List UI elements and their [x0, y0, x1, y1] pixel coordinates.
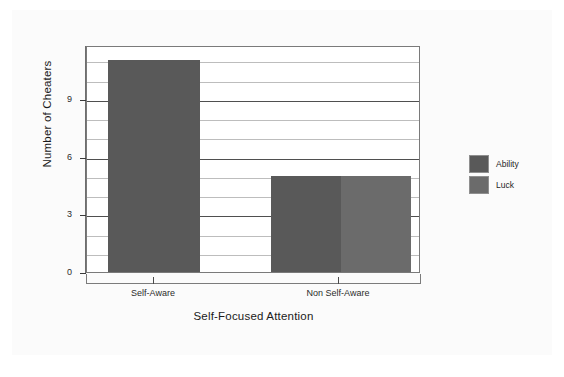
x-axis-left-cap: [86, 274, 87, 284]
legend-label-luck: Luck: [496, 180, 514, 190]
bar-non-self-aware-ability: [271, 176, 341, 272]
y-axis-title: Number of Cheaters: [41, 24, 53, 204]
legend-swatch-luck: [469, 176, 489, 194]
y-tick-mark: [80, 215, 86, 216]
x-tick-label-non-self-aware: Non Self-Aware: [278, 288, 398, 298]
bar-self-aware-ability: [108, 60, 200, 272]
x-tick-mark: [338, 277, 339, 284]
plot-area: [86, 46, 420, 273]
legend-label-ability: Ability: [496, 159, 519, 169]
bar-non-self-aware-luck: [341, 176, 411, 272]
figure: 0369 Number of Cheaters Self-AwareNon Se…: [0, 0, 564, 377]
y-tick-label: 0: [44, 267, 72, 277]
x-axis-title: Self-Focused Attention: [86, 310, 421, 322]
y-tick-mark: [80, 100, 86, 101]
x-tick-mark: [153, 277, 154, 284]
legend-swatch-ability: [469, 155, 489, 173]
y-tick-label: 3: [44, 209, 72, 219]
x-axis-right-cap: [420, 274, 421, 284]
y-tick-mark: [80, 158, 86, 159]
x-axis-line: [86, 283, 421, 284]
y-axis-line: [85, 46, 86, 274]
x-tick-label-self-aware: Self-Aware: [93, 288, 213, 298]
